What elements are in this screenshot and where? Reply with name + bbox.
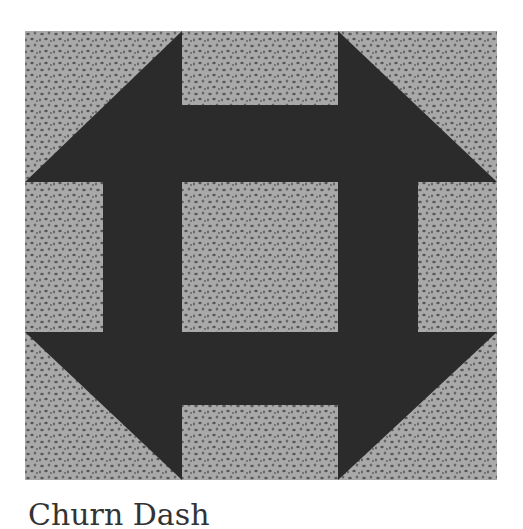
top-dark-strip xyxy=(182,105,338,182)
right-dark-strip xyxy=(338,182,418,332)
churn-dash-block-graphic xyxy=(25,31,497,480)
left-dark-strip xyxy=(103,182,182,332)
light-fabric-background xyxy=(25,31,497,480)
bottom-dark-strip xyxy=(182,332,338,405)
block-caption: Churn Dash xyxy=(28,500,209,529)
quilt-block xyxy=(25,31,497,480)
